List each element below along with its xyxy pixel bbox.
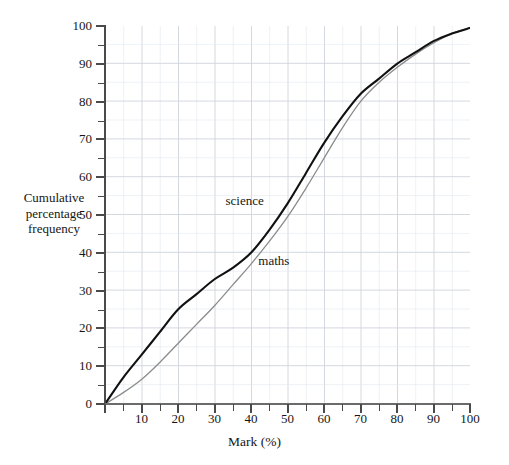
y-tick-label-20: 20 (58, 321, 92, 334)
y-tick-75 (98, 121, 105, 122)
x-tick-75 (379, 404, 380, 411)
y-tick-label-10: 10 (58, 359, 92, 372)
y-tick-25 (98, 310, 105, 311)
y-tick-label-90: 90 (58, 57, 92, 70)
y-tick-50 (96, 214, 105, 216)
y-tick-20 (96, 327, 105, 329)
x-tick-label-30: 30 (195, 412, 235, 425)
x-tick-label-100: 100 (450, 412, 490, 425)
x-tick-label-70: 70 (341, 412, 381, 425)
cumulative-frequency-chart: 0102030405060708090100102030405060708090… (0, 0, 509, 465)
y-tick-60 (96, 176, 105, 178)
x-tick-35 (233, 404, 234, 411)
y-tick-90 (96, 63, 105, 65)
x-tick-85 (415, 404, 416, 411)
y-tick-45 (98, 234, 105, 235)
x-tick-label-50: 50 (268, 412, 308, 425)
x-tick-0 (104, 404, 106, 413)
y-tick-65 (98, 158, 105, 159)
y-axis-title: Cumulative percentage frequency (12, 190, 96, 237)
x-tick-label-40: 40 (231, 412, 271, 425)
x-tick-25 (196, 404, 197, 411)
x-tick-label-20: 20 (158, 412, 198, 425)
y-tick-100 (96, 25, 105, 27)
y-tick-35 (98, 272, 105, 273)
y-axis-title-line-2: percentage (12, 206, 96, 222)
y-tick-70 (96, 138, 105, 140)
series-curves (105, 26, 470, 404)
y-tick-label-30: 30 (58, 284, 92, 297)
y-tick-85 (98, 83, 105, 84)
x-tick-15 (160, 404, 161, 411)
y-axis-title-line-3: frequency (12, 221, 96, 237)
y-tick-80 (96, 101, 105, 103)
y-tick-label-60: 60 (58, 170, 92, 183)
y-tick-label-80: 80 (58, 95, 92, 108)
x-tick-65 (342, 404, 343, 411)
x-tick-label-80: 80 (377, 412, 417, 425)
y-tick-10 (96, 365, 105, 367)
plot-area (105, 26, 470, 404)
y-tick-95 (98, 45, 105, 46)
y-tick-55 (98, 196, 105, 197)
x-tick-label-10: 10 (122, 412, 162, 425)
y-tick-5 (98, 385, 105, 386)
x-tick-5 (123, 404, 124, 411)
x-tick-95 (452, 404, 453, 411)
y-tick-40 (96, 252, 105, 254)
y-tick-30 (96, 290, 105, 292)
y-tick-15 (98, 347, 105, 348)
y-tick-label-40: 40 (58, 246, 92, 259)
x-tick-45 (269, 404, 270, 411)
x-tick-label-90: 90 (414, 412, 454, 425)
y-axis-title-line-1: Cumulative (12, 190, 96, 206)
series-label-maths: maths (258, 253, 289, 269)
x-tick-label-60: 60 (304, 412, 344, 425)
series-label-science: science (225, 193, 263, 209)
x-tick-55 (306, 404, 307, 411)
y-tick-label-0: 0 (58, 397, 92, 410)
x-axis-title: Mark (%) (0, 434, 509, 450)
y-tick-label-100: 100 (58, 19, 92, 32)
y-tick-label-70: 70 (58, 132, 92, 145)
